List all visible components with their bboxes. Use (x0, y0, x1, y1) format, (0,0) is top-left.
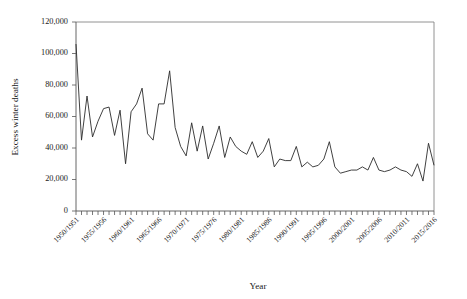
x-tick-label: 2000/2001 (327, 215, 356, 244)
x-tick-label: 1990/1991 (272, 215, 301, 244)
y-tick-label: 80,000 (45, 80, 68, 89)
x-tick-group: 1950/19511955/19561960/19611965/19661970… (52, 211, 439, 244)
y-axis: 020,00040,00060,00080,000100,000120,000 (41, 17, 76, 215)
x-tick-label: 1970/1971 (162, 215, 191, 244)
y-axis-title: Excess winter deaths (10, 78, 20, 155)
excess-winter-deaths-line-chart: 020,00040,00060,00080,000100,000120,000 … (0, 0, 467, 299)
x-tick-label: 1965/1966 (134, 215, 163, 244)
y-tick-label: 40,000 (45, 143, 68, 152)
x-tick-label: 2010/2011 (382, 215, 411, 244)
y-tick-label: 120,000 (41, 17, 68, 26)
x-tick-label: 1985/1986 (244, 215, 273, 244)
series-line-excess-winter-deaths (76, 44, 434, 181)
y-tick-label: 20,000 (45, 174, 68, 183)
x-tick-label: 2005/2006 (354, 215, 383, 244)
x-tick-label: 1975/1976 (189, 215, 218, 244)
y-tick-group: 020,00040,00060,00080,000100,000120,000 (41, 17, 76, 215)
x-tick-label: 1995/1996 (299, 215, 328, 244)
x-tick-label: 1955/1956 (79, 215, 108, 244)
x-tick-label: 1960/1961 (107, 215, 136, 244)
y-tick-label: 100,000 (41, 48, 68, 57)
x-tick-label: 1950/1951 (52, 215, 81, 244)
data-series-group (76, 44, 434, 181)
y-tick-label: 0 (64, 206, 68, 215)
x-axis-title: Year (250, 281, 267, 291)
plot-frame (76, 22, 434, 211)
x-axis: 1950/19511955/19561960/19611965/19661970… (52, 211, 439, 244)
chart-figure: 020,00040,00060,00080,000100,000120,000 … (0, 0, 467, 299)
y-tick-label: 60,000 (45, 111, 68, 120)
x-tick-label: 2015/2016 (410, 215, 439, 244)
x-tick-label: 1980/1981 (217, 215, 246, 244)
